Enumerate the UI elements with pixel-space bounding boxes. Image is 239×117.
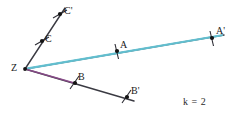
label-point-a-prime: A' [216, 26, 225, 36]
point-b [73, 81, 77, 85]
label-point-b: B [78, 72, 85, 82]
ray-z-to-b-highlight [27, 70, 76, 84]
point-c [40, 39, 44, 43]
label-point-a: A [120, 40, 127, 50]
label-point-z: Z [11, 63, 17, 73]
label-point-b-prime: B' [131, 86, 139, 96]
label-point-c: C [45, 34, 52, 44]
point-c-prime [58, 12, 62, 16]
dilation-diagram: Z A A' B B' C C' k = 2 [0, 0, 239, 117]
point-a [115, 49, 119, 53]
label-point-c-prime: C' [64, 6, 72, 16]
point-z [23, 67, 27, 71]
scale-factor-label: k = 2 [183, 97, 206, 107]
point-b-prime [125, 95, 129, 99]
point-a-prime [210, 36, 214, 40]
